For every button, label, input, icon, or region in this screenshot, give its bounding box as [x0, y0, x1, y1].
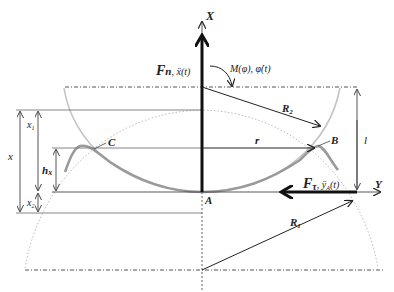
b-leader — [318, 141, 330, 146]
x-dimension-label: x — [7, 150, 13, 162]
r2-label: R2 — [281, 102, 293, 116]
l-label: l — [364, 134, 367, 146]
r-label: r — [255, 134, 260, 146]
point-a-label: A — [204, 194, 212, 206]
point-b-label: B — [330, 134, 338, 146]
moment-label: M(φ), φ̇(t) — [229, 63, 271, 75]
r2-arrow — [202, 87, 320, 126]
x-axis-label: X — [205, 9, 215, 23]
r1-label: R1 — [289, 216, 301, 230]
mechanics-diagram: X Y A B C Fn, ẍ(t) M(φ), φ̇(t) Fτ, ÿA(t)… — [0, 0, 394, 292]
hx-dimension-label: hx — [42, 164, 52, 177]
x1-dimension-label: x1 — [26, 119, 34, 131]
point-c-label: C — [108, 136, 116, 148]
diagram-svg: X Y A B C Fn, ẍ(t) M(φ), φ̇(t) Fτ, ÿA(t)… — [0, 0, 394, 292]
x2-dimension-label: x2 — [26, 197, 34, 209]
y-axis-label: Y — [375, 178, 383, 190]
moment-arrow — [210, 66, 232, 86]
r1-arrow — [202, 201, 352, 270]
normal-force-label: Fn, ẍ(t) — [155, 63, 191, 78]
tangential-force-label: Fτ, ÿA(t) — [302, 176, 340, 192]
